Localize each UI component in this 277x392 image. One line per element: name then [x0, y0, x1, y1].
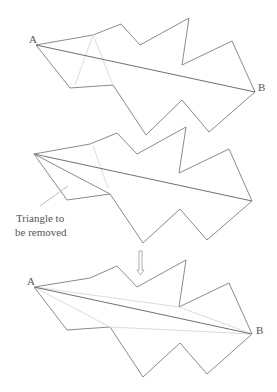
vertex-label-a: A [29, 33, 37, 45]
figure-triangle-removal: Triangle to be removed [15, 127, 252, 243]
vertex-label-a: A [27, 275, 35, 287]
faint-triangulation-edge [110, 327, 252, 334]
polygon-outline [34, 127, 252, 243]
diagonal-a-b [34, 154, 252, 201]
polygon-outline [36, 18, 255, 135]
diagonal-a-b [34, 287, 252, 334]
figure-after: A B [27, 260, 263, 377]
vertex-label-b: B [258, 81, 265, 93]
figure-before: A B [29, 18, 265, 135]
annotation-line-2: be removed [15, 226, 67, 238]
polygon-outline [34, 260, 252, 377]
faint-triangulation-edge [34, 287, 110, 327]
diagonal-a-b [36, 45, 255, 92]
polygon-triangulation-diagram: A B Triangle to be removed A B [0, 0, 277, 392]
faint-triangulation-edge [34, 287, 179, 307]
annotation-line-1: Triangle to [16, 212, 65, 224]
vertex-label-b: B [256, 324, 263, 336]
faint-triangle-edge [75, 35, 93, 85]
faint-triangle-edge [93, 35, 113, 85]
cut-edge [34, 154, 110, 194]
hollow-down-arrow-icon [137, 251, 144, 275]
